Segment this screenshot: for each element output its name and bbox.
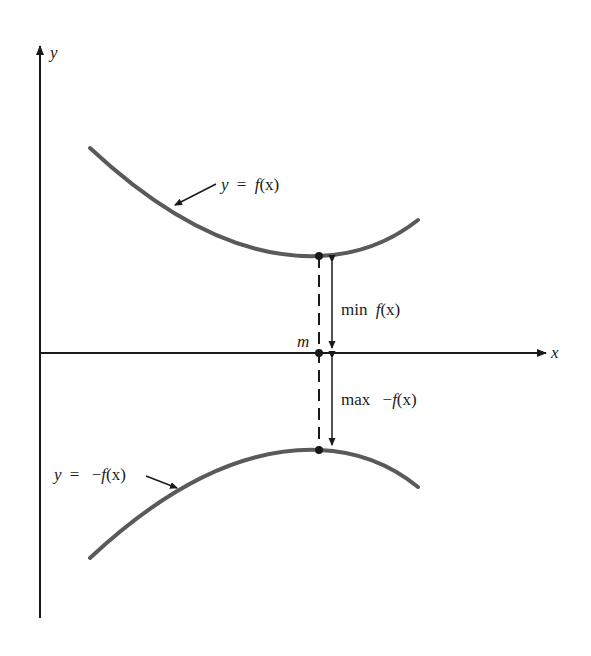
min-label: min f(x) [341, 300, 400, 319]
x-axis-label: x [550, 343, 559, 362]
curve-neg-f-label: y = −f(x) [52, 465, 126, 484]
curve-neg-f [90, 450, 418, 558]
curve-f-pointer [175, 184, 216, 205]
max-label: max −f(x) [341, 390, 417, 409]
max-point [315, 446, 323, 454]
curve-neg-f-pointer [146, 476, 177, 488]
m-point [315, 349, 323, 357]
y-axis-label: y [48, 43, 58, 62]
m-label: m [297, 332, 309, 351]
min-point [315, 252, 323, 260]
curve-f [90, 148, 418, 256]
curve-f-label: y = f(x) [219, 175, 279, 194]
function-diagram: y x m min f(x) max −f(x) y = f(x) y = −f… [0, 0, 591, 656]
